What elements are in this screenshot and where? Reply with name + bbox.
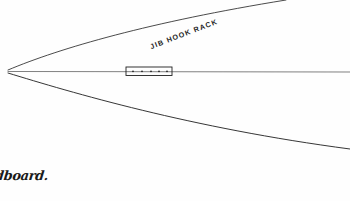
rack-hook-dot: [158, 70, 160, 72]
boat-plan-drawing: [0, 0, 350, 201]
rack-hook-dot: [166, 70, 168, 72]
rack-hook-dot: [150, 70, 152, 72]
rack-hook-dot: [132, 70, 134, 72]
jib-hook-rack-symbol: [126, 67, 172, 76]
lower-hull-curve: [8, 73, 350, 149]
bottom-caption: ndboard.: [0, 168, 49, 183]
centerline: [8, 72, 350, 73]
sketch-sheet: JIB HOOK RACK ndboard.: [0, 0, 350, 201]
rack-hook-dot: [141, 70, 143, 72]
upper-hull-curve: [8, 0, 286, 70]
